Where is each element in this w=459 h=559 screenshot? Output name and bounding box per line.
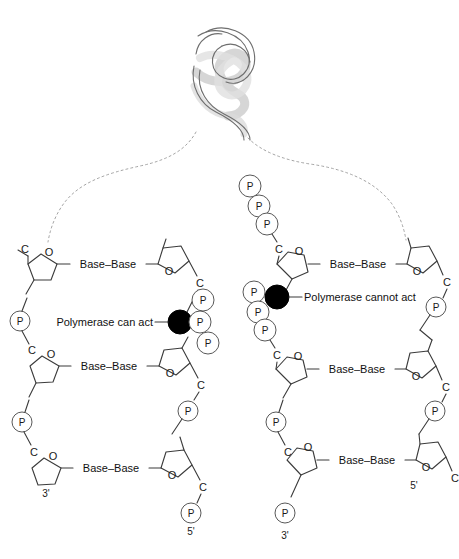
bond-ring-to-c-r2 [190, 363, 198, 378]
five-prime-label: 5' [410, 480, 418, 491]
base-pair-label: Base–Base [339, 454, 395, 466]
phosphate-label: P [197, 317, 204, 328]
bond-ring-to-c-r1 [189, 261, 197, 276]
carbon-label: C [28, 344, 36, 356]
phosphate-label: P [185, 406, 192, 417]
bond-ring-down-l1 [26, 280, 34, 294]
oxygen-label: O [422, 461, 431, 473]
bond-ring-up-rr3 [419, 434, 420, 444]
phosphate-label: P [256, 201, 263, 212]
bond-ring-to-c-rr2 [436, 366, 442, 380]
bond-c-down-r3 [197, 494, 201, 503]
three-prime-label: 3' [281, 530, 289, 541]
three-prime-label: 3' [42, 488, 50, 499]
truncated-caption [0, 550, 459, 559]
bond-ring-down-r2 [283, 384, 291, 398]
phosphate-label: P [262, 325, 269, 336]
bond-p-to-c-top-r [272, 234, 277, 242]
oxygen-label: O [49, 450, 58, 462]
bond-ring-up-r1 [163, 239, 166, 248]
carbon-label: C [21, 243, 29, 255]
base-pair-label: Base–Base [330, 258, 386, 270]
figure-root: O C Base–Base O C P P [0, 0, 459, 559]
bond-ring-down-r3 [291, 475, 301, 497]
bond-p-to-c-l2 [22, 331, 29, 344]
bond-ring-to-c-rr3 [446, 457, 452, 471]
bond-p-up-r2 [279, 400, 283, 412]
sugar-ring-right-2 [406, 351, 436, 378]
phosphate-label: P [432, 406, 439, 417]
bond-p-down-r2 [172, 419, 182, 434]
oxygen-label: O [413, 265, 422, 277]
phosphate-label: P [205, 338, 212, 349]
phosphate-label: P [200, 295, 207, 306]
carbon-label: C [273, 349, 281, 361]
oxygen-label: O [294, 350, 303, 362]
sugar-ring-right-1 [407, 246, 437, 273]
phosphate-label: P [188, 508, 195, 519]
sugar-ring-left-1 [277, 252, 308, 279]
oxygen-label: O [45, 246, 54, 258]
oxygen-label: O [168, 469, 177, 481]
oxygen-label: O [304, 441, 313, 453]
bond-p-down-rr1 [420, 315, 430, 330]
oxygen-label: O [295, 245, 304, 257]
bond-p-join-rr1 [420, 330, 432, 340]
oxygen-label: O [165, 265, 174, 277]
bond-ring-up-r2 [182, 337, 188, 348]
base-pair-label: Base–Base [81, 360, 137, 372]
bond-p-to-c-r3 [278, 432, 285, 445]
dna-double-helix [193, 28, 255, 140]
carbon-label: C [442, 381, 450, 393]
sugar-ring-left-3 [32, 458, 61, 485]
sugar-ring-right-3 [161, 450, 192, 477]
bond-ring-to-c-r3 [192, 465, 200, 480]
bond-ring-to-c-rr1 [437, 261, 443, 275]
phosphate-label: P [433, 302, 440, 313]
bond-ring-down-l2 [29, 383, 36, 397]
polymerase-can-act-label: Polymerase can act [56, 316, 153, 328]
blocked-3-prime-dot [265, 285, 289, 309]
bond-c-down-r2 [194, 392, 199, 400]
dashed-connector-left [48, 132, 196, 242]
phosphate-label: P [17, 316, 24, 327]
phosphate-label: P [282, 508, 289, 519]
carbon-label: C [275, 243, 283, 255]
carbon-label: C [197, 379, 205, 391]
phosphate-label: P [273, 417, 280, 428]
polymerase-cannot-act-label: Polymerase cannot act [304, 291, 416, 303]
sugar-ring-right-1 [158, 246, 189, 273]
five-prime-label: 5' [187, 526, 195, 537]
bond-ring-up-rr1 [408, 238, 411, 248]
bond-p-down-l1 [22, 298, 27, 311]
sugar-ring-right-3 [416, 442, 446, 469]
bond-p-to-c-mid-r [270, 340, 275, 348]
carbon-label: C [451, 472, 459, 484]
bond-ring-up-r3 [180, 437, 184, 450]
oxygen-label: O [47, 348, 56, 360]
bond-p-down-rr2 [419, 419, 429, 434]
phosphate-label: P [247, 181, 254, 192]
phosphate-label: P [255, 307, 262, 318]
phosphate-label: P [251, 287, 258, 298]
sugar-ring-left-2 [276, 357, 307, 384]
phosphate-label: P [19, 417, 26, 428]
sugar-ring-right-2 [159, 348, 190, 375]
phosphate-label: P [264, 219, 271, 230]
oxygen-label: O [412, 370, 421, 382]
carbon-label: C [196, 277, 204, 289]
carbon-label: C [199, 481, 207, 493]
bond-p-up-l2 [25, 400, 29, 412]
polymerase-cannot-act-panel: P P P C O Base–Base O C P P [239, 175, 459, 541]
sugar-ring-left-2 [30, 356, 59, 383]
bond-p-to-c-l3 [24, 432, 31, 445]
carbon-label: C [443, 276, 451, 288]
base-pair-label: Base–Base [80, 258, 136, 270]
oxygen-label: O [166, 367, 175, 379]
free-3-prime-hydroxyl-dot [168, 310, 192, 334]
bond-c-down-rr2 [442, 394, 446, 402]
polymerase-can-act-panel: O C Base–Base O C P P [10, 239, 219, 537]
base-pair-label: Base–Base [329, 363, 385, 375]
carbon-label: C [30, 446, 38, 458]
bond-c-down-rr1 [443, 289, 447, 298]
